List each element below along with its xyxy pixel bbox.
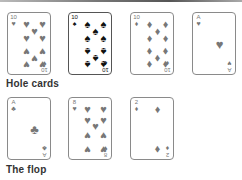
diamonds-icon: ♦: [133, 105, 140, 112]
corner-index-top: 10♥: [10, 14, 17, 27]
clubs-icon: ♣: [10, 105, 17, 112]
spades-icon: ♠: [98, 59, 109, 70]
hearts-icon: ♥: [37, 59, 48, 70]
corner-index-bottom: A♣: [41, 145, 48, 158]
rank-label: 2: [166, 152, 169, 158]
card-8-hearts[interactable]: 8♥8♥♥♥♥♥♥♥♥♥♥: [68, 97, 112, 160]
corner-index-top: 2♦: [133, 99, 140, 112]
card-ace-hearts[interactable]: A♥A♥♥: [192, 12, 236, 75]
hearts-icon: ♥: [82, 144, 93, 155]
hearts-icon: ♥: [71, 105, 78, 112]
diamonds-icon: ♦: [160, 33, 171, 44]
clubs-icon: ♣: [41, 145, 48, 152]
corner-index-top: A♥: [195, 14, 202, 27]
diamonds-icon: ♦: [152, 104, 163, 115]
hearts-icon: ♥: [195, 20, 202, 27]
spades-icon: ♠: [82, 59, 93, 70]
hearts-icon: ♥: [21, 59, 32, 70]
hearts-icon: ♥: [214, 39, 225, 50]
diamonds-icon: ♦: [144, 59, 155, 70]
corner-index-bottom: 2♦: [164, 145, 171, 158]
hole-cards-label: Hole cards: [6, 78, 59, 89]
clubs-icon: ♣: [29, 124, 40, 135]
spades-icon: ♠: [82, 33, 93, 44]
card-2-diamonds[interactable]: 2♦2♦♦♦: [130, 97, 174, 160]
hearts-icon: ♥: [226, 60, 233, 67]
card-ace-clubs[interactable]: A♣A♣♣: [7, 97, 51, 160]
spades-icon: ♠: [71, 20, 78, 27]
corner-index-top: 10♠: [71, 14, 78, 27]
hearts-icon: ♥: [82, 130, 93, 141]
hearts-icon: ♥: [10, 20, 17, 27]
rank-label: A: [43, 152, 47, 158]
diamonds-icon: ♦: [144, 33, 155, 44]
hearts-icon: ♥: [98, 130, 109, 141]
card-10-diamonds[interactable]: 10♦10♦♦♦♦♦♦♦♦♦♦♦: [130, 12, 174, 75]
corner-index-bottom: A♥: [226, 60, 233, 73]
card-10-spades[interactable]: 10♠10♠♠♠♠♠♠♠♠♠♠♠: [68, 12, 112, 75]
diamonds-icon: ♦: [133, 20, 140, 27]
hearts-icon: ♥: [98, 144, 109, 155]
diamonds-icon: ♦: [164, 145, 171, 152]
spades-icon: ♠: [98, 33, 109, 44]
corner-index-top: A♣: [10, 99, 17, 112]
diamonds-icon: ♦: [152, 144, 163, 155]
top-divider: [0, 0, 242, 2]
corner-index-top: 8♥: [71, 99, 78, 112]
hearts-icon: ♥: [37, 33, 48, 44]
flop-label: The flop: [6, 164, 46, 175]
rank-label: A: [228, 67, 232, 73]
hearts-icon: ♥: [21, 33, 32, 44]
corner-index-top: 10♦: [133, 14, 140, 27]
diamonds-icon: ♦: [160, 59, 171, 70]
card-10-hearts[interactable]: 10♥10♥♥♥♥♥♥♥♥♥♥♥: [7, 12, 51, 75]
